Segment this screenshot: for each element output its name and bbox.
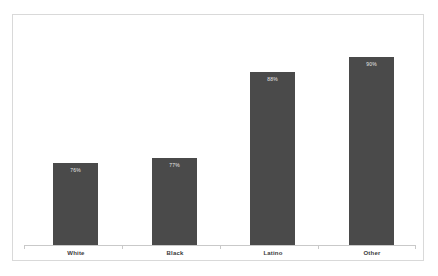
bars-layer: 76% 77% 88% 90% bbox=[24, 24, 415, 245]
bar-other[interactable]: 90% bbox=[349, 57, 394, 245]
bar-chart-figure: 76% 77% 88% 90% White Black Latino Other bbox=[0, 0, 438, 276]
category-label-white: White bbox=[41, 250, 111, 256]
bar-value-label: 77% bbox=[152, 163, 197, 168]
axis-tick bbox=[415, 245, 416, 249]
bar-white[interactable]: 76% bbox=[53, 163, 98, 245]
bar-black[interactable]: 77% bbox=[152, 158, 197, 245]
axis-tick bbox=[122, 245, 123, 249]
axis-tick bbox=[220, 245, 221, 249]
bar-latino[interactable]: 88% bbox=[250, 72, 295, 245]
bar-value-label: 90% bbox=[349, 62, 394, 67]
category-label-other: Other bbox=[337, 250, 407, 256]
axis-tick bbox=[24, 245, 25, 249]
axis-tick bbox=[318, 245, 319, 249]
category-label-latino: Latino bbox=[238, 250, 308, 256]
bar-value-label: 76% bbox=[53, 168, 98, 173]
bar-value-label: 88% bbox=[250, 77, 295, 82]
category-label-black: Black bbox=[140, 250, 210, 256]
